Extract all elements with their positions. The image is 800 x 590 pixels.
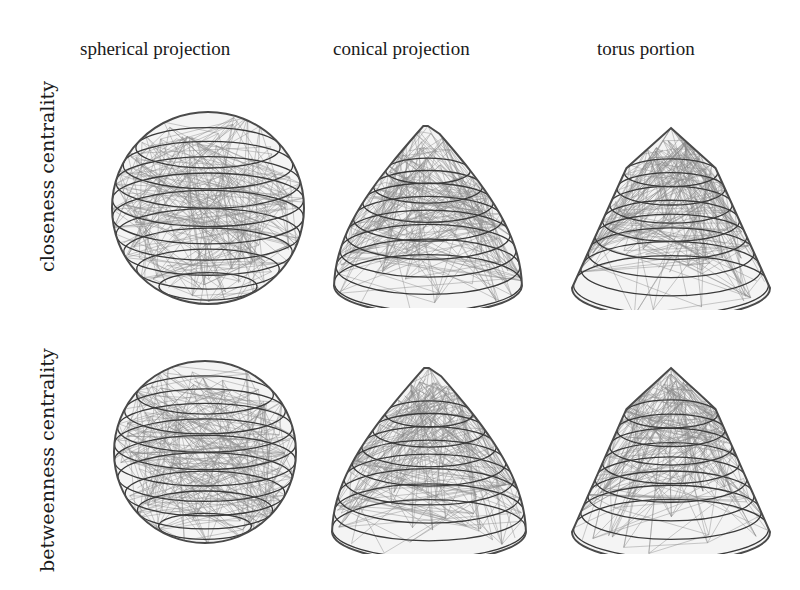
panel-betweenness-torus xyxy=(566,364,776,554)
row-title-closeness: closeness centrality xyxy=(36,81,58,272)
panel-betweenness-cone xyxy=(326,364,532,554)
column-title-spherical: spherical projection xyxy=(80,38,230,60)
row-title-betweenness: betweenness centrality xyxy=(36,348,58,572)
panel-closeness-torus xyxy=(566,124,776,310)
panel-betweenness-sphere xyxy=(110,352,300,552)
panel-closeness-cone xyxy=(328,122,528,308)
panel-closeness-sphere xyxy=(108,108,308,308)
column-title-torus: torus portion xyxy=(597,38,695,60)
column-title-conical: conical projection xyxy=(333,38,470,60)
